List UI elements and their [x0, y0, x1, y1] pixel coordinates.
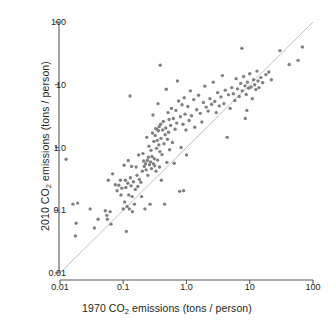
data-point — [224, 88, 227, 91]
data-point — [160, 179, 163, 182]
data-point — [93, 226, 96, 229]
data-point — [246, 80, 249, 83]
data-point — [192, 98, 195, 101]
data-point — [232, 92, 235, 95]
data-point — [200, 120, 203, 123]
data-point — [153, 164, 156, 167]
data-point — [197, 94, 200, 97]
data-point — [187, 119, 190, 122]
x-axis-tick-label: 1.0 — [180, 282, 193, 292]
data-point — [142, 159, 145, 162]
data-point — [162, 142, 165, 145]
data-point — [180, 103, 183, 106]
data-point — [166, 138, 169, 141]
data-point — [147, 156, 150, 159]
data-point — [161, 128, 164, 131]
data-point — [124, 186, 127, 189]
data-point — [165, 87, 168, 90]
data-point — [74, 222, 77, 225]
data-point — [215, 111, 218, 114]
y-axis-tick-label: 0.01 — [48, 268, 66, 278]
data-point — [74, 234, 77, 237]
data-point — [135, 174, 138, 177]
data-point — [71, 202, 74, 205]
data-point — [189, 89, 192, 92]
data-point — [176, 79, 179, 82]
data-point — [233, 99, 236, 102]
data-point — [119, 179, 122, 182]
data-point — [120, 186, 123, 189]
data-point — [249, 85, 252, 88]
identity-line — [60, 22, 313, 273]
x-axis-title-subscript: 2 — [125, 307, 129, 316]
data-point — [117, 184, 120, 187]
data-point — [270, 78, 273, 81]
data-point — [237, 95, 240, 98]
data-point — [105, 214, 108, 217]
data-point — [185, 153, 188, 156]
data-point — [287, 63, 290, 66]
data-point — [234, 77, 237, 80]
data-point — [248, 72, 251, 75]
data-point — [244, 117, 247, 120]
axes-group — [55, 22, 313, 284]
data-point — [159, 63, 162, 66]
data-point — [256, 79, 259, 82]
data-point — [148, 163, 151, 166]
data-point — [259, 76, 262, 79]
data-point — [168, 148, 171, 151]
data-point — [296, 59, 299, 62]
data-point — [261, 81, 264, 84]
data-point — [136, 185, 139, 188]
data-point — [144, 168, 147, 171]
data-point — [128, 94, 131, 97]
data-point — [221, 74, 224, 77]
data-point — [122, 164, 125, 167]
data-point — [115, 189, 118, 192]
data-point — [111, 172, 114, 175]
data-point — [156, 158, 159, 161]
data-point — [143, 207, 146, 210]
data-point — [149, 160, 152, 163]
data-point — [137, 153, 140, 156]
data-point — [145, 136, 148, 139]
identity-line — [60, 22, 313, 273]
data-point — [216, 91, 219, 94]
data-point — [175, 121, 178, 124]
data-point — [141, 169, 144, 172]
data-point — [131, 210, 134, 213]
data-point — [195, 108, 198, 111]
x-axis-tick-label: 10 — [245, 282, 255, 292]
data-point — [134, 188, 137, 191]
data-point — [172, 117, 175, 120]
data-point — [186, 105, 189, 108]
data-point — [218, 104, 221, 107]
data-point — [130, 165, 133, 168]
data-point — [149, 149, 152, 152]
x-axis-tick-label: 100 — [305, 282, 320, 292]
data-point — [254, 88, 257, 91]
data-point — [257, 86, 260, 89]
data-point — [179, 146, 182, 149]
y-axis-tick-label: 1.0 — [53, 143, 66, 153]
data-point — [173, 128, 176, 131]
data-point — [245, 109, 248, 112]
data-point — [177, 99, 180, 102]
x-axis-title-prefix: 1970 CO — [82, 302, 125, 314]
data-point — [155, 147, 158, 150]
data-point — [174, 109, 177, 112]
data-point — [147, 144, 150, 147]
y-axis-tick-label: 0.1 — [53, 205, 66, 215]
data-point — [157, 143, 160, 146]
scatter-plot-figure: 0.010.11.010100 0.010.11.010100 1970 CO2… — [0, 0, 334, 329]
data-point — [222, 102, 225, 105]
data-point — [126, 181, 129, 184]
data-point — [255, 69, 258, 72]
data-point — [236, 87, 239, 90]
data-point — [173, 162, 176, 165]
data-point — [278, 49, 281, 52]
data-point — [76, 201, 79, 204]
data-point — [140, 195, 143, 198]
data-point — [267, 70, 270, 73]
data-point — [171, 141, 174, 144]
